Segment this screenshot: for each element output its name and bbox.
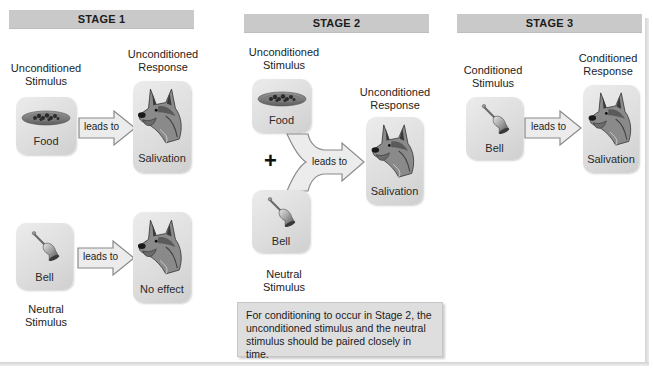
label-line: Stimulus bbox=[448, 77, 538, 90]
stage-1-neutral-stimulus-label: Neutral Stimulus bbox=[0, 303, 92, 329]
stage-3-bell-tile: Bell bbox=[466, 97, 523, 160]
stage-1-dog-salivation-tile: Salivation bbox=[133, 81, 191, 173]
label-line: Unconditioned bbox=[347, 86, 443, 99]
label-line: Response bbox=[563, 65, 653, 78]
stage-1-unconditioned-stimulus-label: Unconditioned Stimulus bbox=[0, 62, 92, 88]
stage-2-unconditioned-response-label: Unconditioned Response bbox=[347, 86, 443, 112]
stage-2-header: STAGE 2 bbox=[244, 14, 429, 33]
stage-2-food-tile: Food bbox=[252, 79, 311, 133]
stage-3-dog-salivation-tile: Salivation bbox=[583, 85, 639, 173]
label-line: Stimulus bbox=[0, 316, 92, 329]
label-line: Unconditioned bbox=[115, 48, 211, 61]
food-bowl-icon bbox=[21, 109, 71, 127]
note-line: For conditioning to occur in Stage 2, th… bbox=[246, 309, 436, 322]
note-line: unconditioned stimulus and the neutral bbox=[246, 322, 436, 335]
stage-1-bell-tile: Bell bbox=[16, 223, 73, 290]
bell-icon bbox=[30, 229, 62, 263]
tile-caption-food: Food bbox=[252, 114, 311, 126]
label-line: Stimulus bbox=[0, 75, 92, 88]
stage-1-unconditioned-response-label: Unconditioned Response bbox=[115, 48, 211, 74]
label-line: Neutral bbox=[236, 268, 332, 281]
dog-head-icon bbox=[137, 218, 185, 276]
arrow-label: leads to bbox=[84, 121, 119, 132]
label-line: Unconditioned bbox=[236, 46, 332, 59]
stage-2-unconditioned-stimulus-label: Unconditioned Stimulus bbox=[236, 46, 332, 72]
tile-caption-bell: Bell bbox=[16, 271, 73, 283]
stage-1-dog-no-effect-tile: No effect bbox=[133, 212, 191, 303]
tile-caption-salivation: Salivation bbox=[583, 153, 639, 165]
stage-3-conditioned-response-label: Conditioned Response bbox=[563, 52, 653, 78]
stage-2-dog-salivation-tile: Salivation bbox=[366, 117, 423, 205]
frame-shadow-bottom bbox=[0, 362, 649, 366]
stage-2-timing-note: For conditioning to occur in Stage 2, th… bbox=[237, 302, 443, 357]
tile-caption-salivation: Salivation bbox=[133, 152, 191, 164]
label-line: Conditioned bbox=[448, 64, 538, 77]
tile-caption-salivation: Salivation bbox=[366, 185, 423, 197]
label-line: Response bbox=[347, 99, 443, 112]
food-bowl-icon bbox=[257, 90, 307, 108]
tile-caption-food: Food bbox=[16, 135, 76, 147]
label-line: Stimulus bbox=[236, 281, 332, 294]
tile-caption-no-effect: No effect bbox=[133, 283, 191, 295]
label-line: Conditioned bbox=[563, 52, 653, 65]
tile-caption-bell: Bell bbox=[252, 235, 310, 247]
label-line: Stimulus bbox=[236, 59, 332, 72]
dog-head-icon bbox=[137, 87, 185, 145]
stage-2-bell-tile: Bell bbox=[252, 190, 310, 253]
stage-2-neutral-stimulus-label: Neutral Stimulus bbox=[236, 268, 332, 294]
tile-caption-bell: Bell bbox=[466, 142, 523, 154]
arrow-label: leads to bbox=[83, 251, 118, 262]
label-line: Unconditioned bbox=[0, 62, 92, 75]
dog-head-icon bbox=[370, 123, 418, 179]
label-line: Neutral bbox=[0, 303, 92, 316]
stage-1-header: STAGE 1 bbox=[9, 10, 194, 29]
note-line: stimulus should be paired closely in tim… bbox=[246, 335, 436, 361]
stage-3-header: STAGE 3 bbox=[457, 14, 642, 33]
arrow-label: leads to bbox=[531, 121, 566, 132]
arrow-label: leads to bbox=[312, 156, 347, 167]
plus-sign: + bbox=[264, 150, 277, 172]
bell-icon bbox=[480, 102, 512, 136]
stage-1-food-tile: Food bbox=[16, 97, 76, 155]
bell-icon bbox=[266, 195, 298, 229]
label-line: Response bbox=[115, 61, 211, 74]
dog-head-icon bbox=[587, 91, 635, 147]
stage-3-conditioned-stimulus-label: Conditioned Stimulus bbox=[448, 64, 538, 90]
